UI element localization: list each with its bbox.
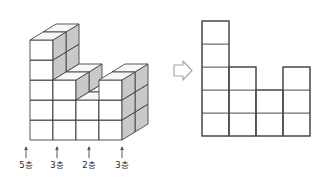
axis-label-col-4: 3층 [110, 160, 134, 170]
tick-arrow-col-2 [55, 146, 59, 158]
figure-page: 5층 3층 2층 3층 [0, 0, 330, 177]
axis-label-col-2: 3층 [45, 160, 69, 170]
axis-label-col-1: 5층 [14, 160, 38, 170]
tick-arrow-col-3 [87, 146, 91, 158]
tick-arrow-col-4 [120, 146, 124, 158]
figure-stage: 5층 3층 2층 3층 [0, 0, 330, 177]
column-tick-marks [0, 0, 330, 177]
axis-label-col-3: 2층 [77, 160, 101, 170]
tick-arrow-col-1 [24, 146, 28, 158]
